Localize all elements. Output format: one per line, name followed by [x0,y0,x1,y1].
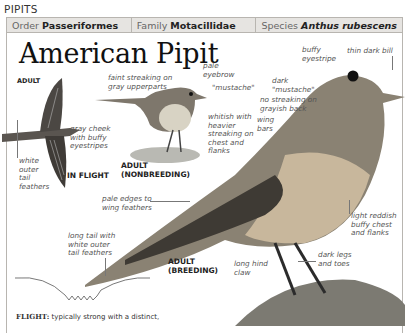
annotation-gray-cheek: gray cheekwith buffyeyestripes [70,125,111,151]
leader-thin-bill [392,56,393,70]
taxonomy-family: Family Motacillidae [132,18,257,32]
in-flight-label: IN FLIGHT [67,171,109,180]
leader-dark-legs [298,261,316,262]
leader-reddish [349,200,350,214]
annotation-whitish: whitish withheavierstreaking onchest and… [208,113,254,156]
section-label: PIPITS [4,3,38,15]
taxonomy-order: Order Passeriformes [7,18,132,32]
annotation-mustache: "mustache" [212,84,255,93]
flight-description: FLIGHT: typically strong with a distinct… [16,312,159,321]
breeding-label-1: ADULT [168,257,195,266]
adult-flight-label: ADULT [17,77,40,86]
annotation-long-tail: long tail withwhite outertail feathers [68,232,115,258]
annotation-pale-eyebrow: paleeyebrow [203,62,234,79]
annotation-thin-bill: thin dark bill [347,47,393,56]
nonbreeding-label-1: ADULT [121,161,148,170]
annotation-white-outer: whiteoutertailfeathers [19,157,49,191]
annotation-faint-streaking: faint streaking ongray upperparts [108,74,172,91]
annotation-hind-claw: long hindclaw [234,260,268,277]
leader-white-outer [17,120,18,158]
annotation-no-streaking: no streaking ongrayish back [260,96,317,113]
annotation-dark-mustache: dark"mustache" [272,77,315,94]
taxonomy-species: Species Anthus rubescens [256,18,402,32]
leader-long-tail [105,258,106,276]
breeding-label-2: (BREEDING) [168,266,218,275]
annotation-light-reddish: light reddishbuffy chestand flanks [351,212,397,238]
annotation-dark-legs: dark legsand toes [318,251,352,268]
annotation-pale-edges: pale edges towing feathers [102,195,152,212]
leader-pale-edges [150,201,190,202]
nonbreeding-label-2: (NONBREEDING) [121,170,190,179]
annotation-buffy-eyestripe: buffyeyestripe [302,46,336,63]
taxonomy-bar: Order Passeriformes Family Motacillidae … [6,17,403,33]
flight-pattern-diagram [15,270,150,310]
annotation-wing-bars: wingbars [257,116,274,133]
